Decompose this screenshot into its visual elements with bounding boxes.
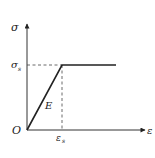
x-axis-label: ε (147, 125, 152, 136)
yield-stress-subscript: s (18, 65, 21, 72)
origin-label: O (12, 124, 21, 137)
stress-strain-diagram: σ σ s E O ε s ε (0, 0, 155, 158)
yield-strain-label: ε (56, 133, 61, 143)
modulus-label: E (44, 100, 53, 111)
yield-strain-subscript: s (62, 137, 65, 144)
y-axis-label: σ (11, 21, 19, 34)
stress-strain-curve (27, 65, 116, 130)
